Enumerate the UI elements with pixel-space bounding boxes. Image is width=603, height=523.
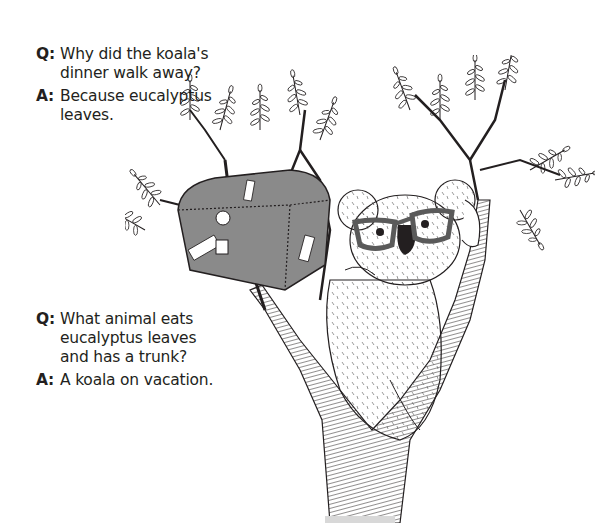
question-label: Q: [36, 45, 60, 83]
luggage-trunk [178, 170, 330, 290]
answer-label: A: [36, 371, 60, 390]
answer-label: A: [36, 87, 60, 125]
page-edge [325, 516, 395, 523]
koala-tree-illustration [125, 55, 595, 523]
question-label: Q: [36, 310, 60, 367]
